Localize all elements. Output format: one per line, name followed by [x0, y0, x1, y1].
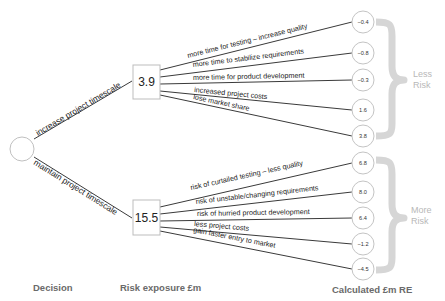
bracket-label-risk: Risk — [411, 216, 429, 226]
re-value: −0.4 — [357, 19, 368, 25]
outcome-node: −0.4 — [352, 11, 374, 33]
outcome-node: 1.6 — [352, 99, 374, 121]
re-value: 3.8 — [359, 133, 367, 139]
outcome-node: 6.8 — [352, 152, 374, 174]
decision-tree-diagram: increase project timescale maintain proj… — [0, 0, 445, 301]
risk-exposure-value-increase: 3.9 — [138, 75, 155, 89]
re-value: −0.8 — [357, 50, 368, 56]
re-value: −4.5 — [357, 266, 368, 272]
re-value: 1.6 — [359, 107, 367, 113]
outcome-node: 6.4 — [352, 207, 374, 229]
outcome-node: −0.8 — [352, 42, 374, 64]
outcome-line — [160, 95, 352, 136]
outcome-line — [160, 218, 352, 221]
curly-bracket-more-risk-icon — [376, 160, 404, 270]
footer-calculated-label: Calculated £m RE — [332, 284, 412, 295]
outcome-node: −4.5 — [352, 258, 374, 280]
re-value: 8.0 — [359, 189, 367, 195]
footer-risk-exposure-label: Risk exposure £m — [120, 282, 201, 293]
curly-bracket-less-risk-icon — [376, 22, 404, 136]
re-value: 6.4 — [359, 215, 367, 221]
risk-exposure-value-maintain: 15.5 — [135, 211, 159, 225]
decision-label-maintain: maintain project timescale — [32, 157, 120, 217]
bracket-label-risk: Risk — [413, 80, 431, 90]
re-value: −1.2 — [357, 241, 368, 247]
outcome-node: 8.0 — [352, 181, 374, 203]
decision-label-increase: increase project timescale — [34, 80, 123, 138]
outcome-label: risk of hurried product development — [197, 207, 310, 218]
bracket-label-less: Less — [413, 69, 433, 79]
re-value: 6.8 — [359, 160, 367, 166]
re-value: −0.3 — [357, 77, 368, 83]
root-decision-node — [10, 137, 34, 161]
bracket-label-more: More — [411, 205, 432, 215]
outcome-node: −1.2 — [352, 233, 374, 255]
outcome-line — [160, 22, 352, 70]
outcome-node: −0.3 — [352, 69, 374, 91]
outcome-label: more time for product development — [193, 71, 305, 82]
outcome-node: 3.8 — [352, 125, 374, 147]
footer-decision-label: Decision — [33, 282, 73, 293]
